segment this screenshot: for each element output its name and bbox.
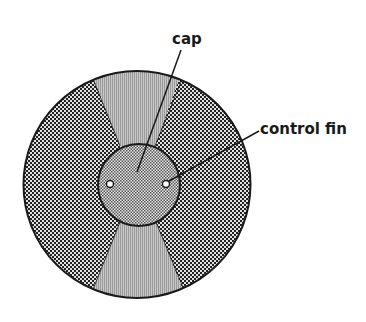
- control-fin-left: [107, 181, 114, 188]
- control-fin-label: control fin: [260, 120, 347, 138]
- control-fin-right: [163, 181, 170, 188]
- cross-section-diagram: cap control fin: [0, 0, 366, 322]
- cap-label: cap: [172, 30, 202, 48]
